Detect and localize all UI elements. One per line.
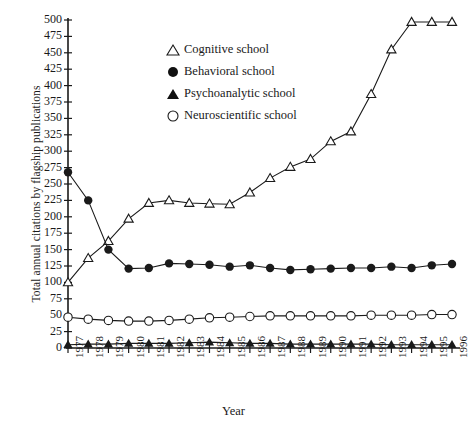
x-tick-label: 1983 xyxy=(194,336,206,358)
data-point xyxy=(407,340,416,348)
data-point xyxy=(185,260,193,268)
x-tick-label: 1986 xyxy=(255,336,267,358)
y-tick-label: 100 xyxy=(20,274,62,289)
data-point xyxy=(427,17,436,25)
x-tick-label: 1993 xyxy=(396,336,408,358)
data-point xyxy=(346,127,355,135)
legend-item-neuroscientific: Neuroscientific school xyxy=(162,104,297,126)
x-tick-label: 1988 xyxy=(295,336,307,358)
x-tick-label: 1987 xyxy=(275,336,287,358)
y-tick-label: 475 xyxy=(20,28,62,43)
y-tick-label: 25 xyxy=(20,324,62,339)
x-tick-label: 1994 xyxy=(417,336,429,358)
y-tick-label: 300 xyxy=(20,143,62,158)
data-point xyxy=(387,311,395,319)
y-tick-label: 175 xyxy=(20,225,62,240)
data-point xyxy=(124,339,133,347)
data-point xyxy=(367,264,375,272)
x-tick-label: 1985 xyxy=(235,336,247,358)
x-tick-label: 1977 xyxy=(73,336,85,358)
data-point xyxy=(246,312,254,320)
data-point xyxy=(428,310,436,318)
data-point xyxy=(84,315,92,323)
x-tick-label: 1978 xyxy=(93,336,105,358)
y-tick-label: 425 xyxy=(20,61,62,76)
data-point xyxy=(286,266,294,274)
legend-item-behavioral: Behavioral school xyxy=(162,60,297,82)
x-tick-label: 1990 xyxy=(336,336,348,358)
open-triangle-icon xyxy=(162,43,184,56)
data-point xyxy=(306,312,314,320)
open-circle-icon xyxy=(162,109,184,122)
data-point xyxy=(205,260,213,268)
y-tick-label: 50 xyxy=(20,307,62,322)
data-point xyxy=(266,173,275,181)
x-tick-label: 1996 xyxy=(457,336,469,358)
data-point xyxy=(447,17,456,25)
y-tick-label: 125 xyxy=(20,258,62,273)
legend-item-cognitive: Cognitive school xyxy=(162,38,297,60)
data-point xyxy=(145,317,153,325)
x-axis-title: Year xyxy=(0,404,467,419)
data-point xyxy=(164,196,173,204)
data-point xyxy=(225,313,233,321)
x-tick-label: 1979 xyxy=(113,336,125,358)
y-tick-label: 75 xyxy=(20,291,62,306)
legend-label: Cognitive school xyxy=(184,42,269,57)
y-tick-label: 200 xyxy=(20,209,62,224)
data-point xyxy=(306,265,314,273)
data-point xyxy=(165,316,173,324)
filled-circle-icon xyxy=(162,65,184,78)
legend-item-psychoanalytic: Psychoanalytic school xyxy=(162,82,297,104)
y-tick-label: 350 xyxy=(20,110,62,125)
data-point xyxy=(367,311,375,319)
data-point xyxy=(407,264,415,272)
legend-label: Neuroscientific school xyxy=(184,108,297,123)
data-point xyxy=(104,316,112,324)
data-point xyxy=(145,264,153,272)
data-point xyxy=(124,214,133,222)
data-point xyxy=(428,261,436,269)
x-tick-label: 1995 xyxy=(437,336,449,358)
data-point xyxy=(124,264,132,272)
data-point xyxy=(64,168,72,176)
data-point xyxy=(326,137,335,145)
data-point xyxy=(185,315,193,323)
data-point xyxy=(327,264,335,272)
data-point xyxy=(407,17,416,25)
x-tick-label: 1992 xyxy=(376,336,388,358)
y-tick-label: 400 xyxy=(20,78,62,93)
legend-label: Behavioral school xyxy=(184,64,275,79)
x-tick-label: 1991 xyxy=(356,336,368,358)
data-point xyxy=(266,312,274,320)
y-tick-label: 325 xyxy=(20,127,62,142)
data-point xyxy=(286,162,295,170)
y-tick-label: 250 xyxy=(20,176,62,191)
data-point xyxy=(306,339,315,347)
data-point xyxy=(245,188,254,196)
y-tick-label: 375 xyxy=(20,94,62,109)
data-point xyxy=(387,262,395,270)
x-tick-label: 1980 xyxy=(134,336,146,358)
data-point xyxy=(448,310,456,318)
data-point xyxy=(286,312,294,320)
y-tick-label: 275 xyxy=(20,160,62,175)
y-tick-label: 500 xyxy=(20,12,62,27)
data-point xyxy=(327,312,335,320)
data-point xyxy=(387,45,396,53)
x-tick-label: 1982 xyxy=(174,336,186,358)
data-point xyxy=(448,260,456,268)
data-point xyxy=(407,311,415,319)
x-tick-label: 1984 xyxy=(214,336,226,358)
y-tick-label: 450 xyxy=(20,45,62,60)
x-tick-label: 1981 xyxy=(154,336,166,358)
data-point xyxy=(64,313,72,321)
data-point xyxy=(165,259,173,267)
data-point xyxy=(205,337,214,345)
data-point xyxy=(347,264,355,272)
legend-label: Psychoanalytic school xyxy=(184,86,295,101)
chart-legend: Cognitive school Behavioral school Psych… xyxy=(162,38,297,126)
data-point xyxy=(246,261,254,269)
y-tick-label: 150 xyxy=(20,242,62,257)
